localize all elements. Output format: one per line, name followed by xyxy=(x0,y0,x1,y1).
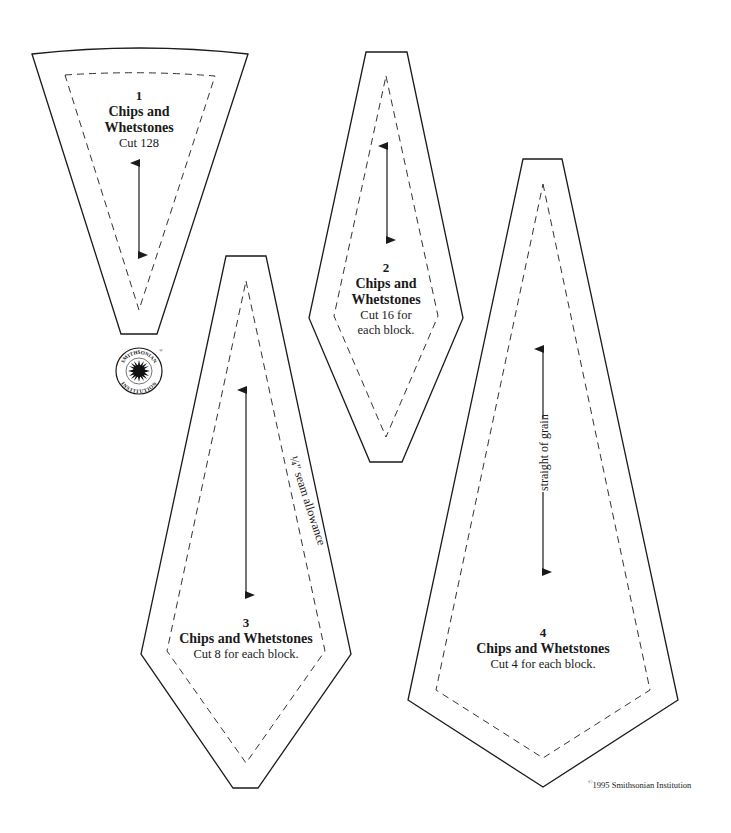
svg-text:INSTITUTION: INSTITUTION xyxy=(120,380,158,394)
piece-4-cut-count: Cut 4 for each block. xyxy=(463,657,623,671)
piece-1-cut-count: Cut 128 xyxy=(79,136,199,150)
piece-2-number: 2 xyxy=(326,261,446,276)
piece-2-cut-line2: each block. xyxy=(326,323,446,337)
piece-3-cut-count: Cut 8 for each block. xyxy=(166,647,326,661)
piece-3-label: 3 Chips and Whetstones Cut 8 for each bl… xyxy=(166,616,326,661)
piece-2-label: 2 Chips and Whetstones Cut 16 for each b… xyxy=(326,261,446,337)
piece-4-name: Chips and Whetstones xyxy=(463,641,623,657)
copyright-notice: ©1995 Smithsonian Institution xyxy=(588,779,691,790)
copyright-text: 1995 Smithsonian Institution xyxy=(593,780,692,790)
piece-4-label: 4 Chips and Whetstones Cut 4 for each bl… xyxy=(463,626,623,671)
piece-2 xyxy=(309,52,463,462)
piece-2-cutting-line xyxy=(309,52,463,462)
piece-2-name-line2: Whetstones xyxy=(326,292,446,308)
smithsonian-sun-icon: SMITHSONIAN INSTITUTION ® xyxy=(114,346,164,396)
piece-1-label: 1 Chips and Whetstones Cut 128 xyxy=(79,89,199,151)
piece-3-name: Chips and Whetstones xyxy=(166,631,326,647)
piece-2-name-line1: Chips and xyxy=(326,276,446,292)
piece-1-name-line1: Chips and xyxy=(79,104,199,120)
piece-1-number: 1 xyxy=(79,89,199,104)
piece-4-number: 4 xyxy=(463,626,623,641)
straight-of-grain-label: straight of grain xyxy=(537,414,552,491)
piece-1-name-line2: Whetstones xyxy=(79,120,199,136)
svg-text:®: ® xyxy=(159,348,163,353)
piece-3-number: 3 xyxy=(166,616,326,631)
piece-2-cut-line1: Cut 16 for xyxy=(326,308,446,322)
smithsonian-logo: SMITHSONIAN INSTITUTION ® xyxy=(114,346,164,396)
